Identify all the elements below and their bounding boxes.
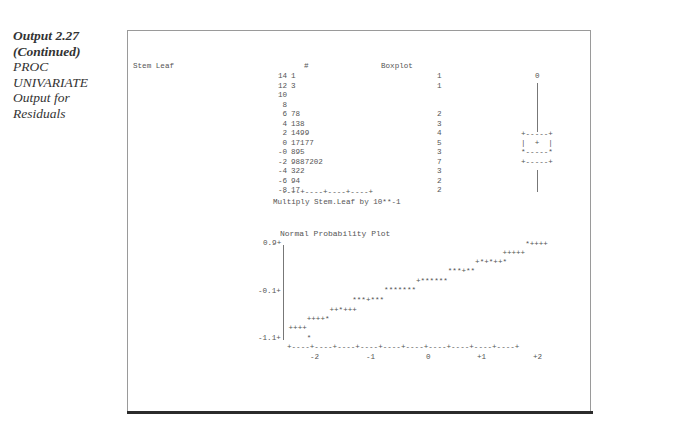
leaf-value: 3	[291, 82, 296, 92]
plot-point-row: *++++	[525, 240, 548, 250]
leaf-value: 17177	[291, 139, 314, 149]
x-label-pos1: +1	[477, 353, 486, 363]
leaf-value: 895	[291, 148, 305, 158]
bottom-rule	[127, 411, 593, 414]
caption-output-for: Output for	[13, 90, 123, 106]
leaf-value: 138	[291, 120, 305, 130]
plot-point-row: *******	[384, 286, 416, 296]
leaf-value: 9887202	[291, 158, 323, 168]
stem-value: 4	[277, 120, 287, 130]
count-value: 5	[437, 139, 442, 149]
leaf-value: 78	[291, 110, 300, 120]
leaf-value: 94	[291, 177, 300, 187]
stem-value: 6	[277, 110, 287, 120]
count-value: 2	[437, 110, 442, 120]
plot-point-row: ***+**	[448, 267, 475, 277]
count-value: 7	[437, 158, 442, 168]
stem-leaf-footnote: Multiply Stem.Leaf by 10**-1	[273, 198, 401, 208]
plot-point-row: +*+*++*	[475, 258, 507, 268]
stem-value: 0	[277, 139, 287, 149]
plot-point-row: ++++*	[307, 315, 330, 325]
x-label-neg1: -1	[366, 353, 375, 363]
normal-plot-x-axis: +----+----+----+----+----+----+----+----…	[287, 343, 519, 353]
normal-plot-title: Normal Probability Plot	[280, 229, 390, 239]
count-header: #	[304, 62, 309, 72]
boxplot-outlier: 0	[535, 72, 540, 82]
caption-proc: PROC	[13, 59, 123, 75]
y-label-mid: -0.1+	[258, 287, 281, 297]
boxplot-lower-whisker	[537, 170, 538, 192]
plot-point-row: +******	[416, 277, 448, 287]
stem-value: -4	[277, 167, 287, 177]
count-value: 3	[437, 148, 442, 158]
count-value: 3	[437, 167, 442, 177]
stem-value: 14	[277, 72, 287, 82]
stem-value: -0	[277, 148, 287, 158]
count-value: 2	[437, 177, 442, 187]
stem-value: 12	[277, 82, 287, 92]
count-value: 1	[437, 72, 442, 82]
count-value: 3	[437, 120, 442, 130]
stem-value: 8	[277, 101, 287, 111]
plot-point-row: ++*+++	[330, 306, 357, 316]
stem-value: 10	[277, 91, 287, 101]
plot-point-row: ***+***	[352, 296, 384, 306]
boxplot-box-median: *-----*	[521, 148, 553, 158]
stem-value: 2	[277, 129, 287, 139]
stem-leaf-axis: ----+----+----+----+	[282, 188, 373, 198]
caption-univariate: UNIVARIATE	[13, 75, 123, 91]
stem-leaf-header: Stem Leaf	[133, 62, 174, 72]
caption-continued: (Continued)	[13, 44, 123, 60]
caption-output-number: Output 2.27	[13, 28, 123, 44]
leaf-value: 1499	[291, 129, 309, 139]
x-label-neg2: -2	[310, 353, 319, 363]
stem-value: -2	[277, 158, 287, 168]
boxplot-upper-whisker	[537, 83, 538, 132]
count-value: 1	[437, 82, 442, 92]
stem-value: -6	[277, 177, 287, 187]
x-label-pos2: +2	[533, 353, 542, 363]
plot-point-row: ++++	[289, 324, 307, 334]
boxplot-box-bottom: +-----+	[521, 158, 553, 168]
leaf-value: 1	[291, 72, 296, 82]
count-value: 2	[437, 186, 442, 196]
y-label-top: 0.9+	[263, 239, 281, 249]
x-label-0: 0	[426, 353, 431, 363]
normal-plot-y-axis	[283, 245, 284, 340]
leaf-value: 322	[291, 167, 305, 177]
figure-caption: Output 2.27 (Continued) PROC UNIVARIATE …	[13, 28, 123, 121]
output-frame	[127, 30, 591, 413]
count-value: 4	[437, 129, 442, 139]
y-label-bottom: -1.1+	[258, 334, 281, 344]
boxplot-header: Boxplot	[381, 62, 413, 72]
caption-residuals: Residuals	[13, 106, 123, 122]
